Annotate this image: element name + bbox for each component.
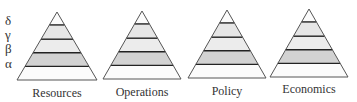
- pyramid-band: [126, 24, 157, 38]
- pyramid-band: [103, 65, 181, 79]
- pyramid-band: [41, 25, 73, 39]
- pyramid-band: [25, 53, 89, 67]
- pyramid-band: [49, 12, 64, 25]
- level-symbol: β: [5, 42, 12, 55]
- pyramid-resources: [17, 12, 97, 80]
- pyramid-policy: [188, 10, 266, 78]
- pyramid-label: Economics: [264, 82, 354, 96]
- level-symbol: γ: [5, 28, 11, 41]
- level-symbol: α: [5, 57, 12, 70]
- pyramid-economics: [270, 9, 348, 77]
- pyramid-band: [188, 64, 266, 78]
- pyramid-label: Policy: [182, 84, 272, 98]
- pyramid-label: Operations: [97, 85, 187, 99]
- pyramid-operations: [103, 11, 181, 79]
- level-symbol: δ: [5, 14, 11, 27]
- pyramid-band: [211, 23, 242, 37]
- pyramid-band: [293, 22, 324, 36]
- pyramid-band: [270, 63, 348, 77]
- pyramid-label: Resources: [12, 86, 102, 100]
- pyramid-band: [220, 10, 235, 23]
- pyramid-band: [302, 9, 317, 22]
- pyramid-band: [135, 11, 150, 24]
- pyramid-band: [111, 52, 173, 66]
- pyramid-band: [17, 66, 97, 80]
- pyramid-band: [278, 50, 340, 64]
- pyramid-band: [196, 51, 258, 65]
